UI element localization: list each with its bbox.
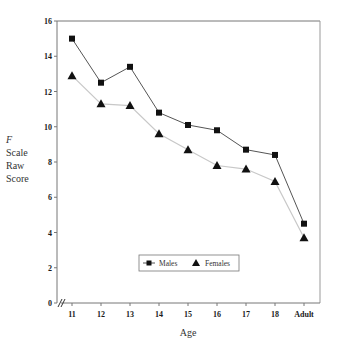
triangle-marker-icon — [271, 177, 280, 185]
x-tick-label: 17 — [242, 310, 250, 319]
y-tick-label: 0 — [48, 299, 52, 308]
y-tick-label: 10 — [44, 123, 52, 132]
series-line-males — [72, 39, 304, 224]
y-axis-ticks: 0246810121416 — [44, 17, 57, 308]
square-marker-icon — [98, 80, 104, 86]
square-marker-icon — [69, 36, 75, 42]
square-marker-icon — [272, 152, 278, 158]
y-axis-label-line: Scale — [6, 147, 28, 158]
x-tick-label: 16 — [213, 310, 221, 319]
x-tick-label: 18 — [271, 310, 279, 319]
x-axis-label: Age — [180, 327, 197, 338]
triangle-marker-icon — [184, 145, 193, 153]
triangle-marker-icon — [213, 161, 222, 169]
x-tick-label: 12 — [97, 310, 105, 319]
y-tick-label: 2 — [48, 264, 52, 273]
square-marker-icon — [156, 110, 162, 116]
square-marker-icon — [301, 221, 307, 227]
y-axis-label-line: Score — [6, 173, 29, 184]
y-tick-label: 6 — [48, 193, 52, 202]
x-tick-label: 14 — [155, 310, 163, 319]
x-axis-ticks: 1112131415161718Adult — [68, 303, 314, 319]
data-series — [68, 36, 309, 242]
y-tick-label: 16 — [44, 17, 52, 26]
y-axis-label: FScaleRawScore — [5, 134, 29, 184]
y-tick-label: 4 — [48, 229, 52, 238]
legend: MalesFemales — [139, 255, 239, 271]
y-tick-label: 12 — [44, 88, 52, 97]
y-axis-label-line: Raw — [6, 160, 25, 171]
line-chart: 0246810121416 1112131415161718Adult FSca… — [0, 0, 339, 350]
triangle-marker-icon — [300, 233, 309, 241]
x-tick-label: 11 — [68, 310, 76, 319]
y-tick-label: 14 — [44, 52, 52, 61]
x-tick-label: 13 — [126, 310, 134, 319]
square-marker-icon — [127, 64, 133, 70]
legend-label-males: Males — [159, 259, 177, 268]
x-tick-label: 15 — [184, 310, 192, 319]
triangle-marker-icon — [68, 71, 77, 79]
legend-label-females: Females — [205, 259, 230, 268]
y-tick-label: 8 — [48, 158, 52, 167]
square-marker-icon — [185, 122, 191, 128]
square-marker-icon — [243, 147, 249, 153]
square-marker-icon — [147, 261, 152, 266]
y-axis-label-line: F — [5, 134, 13, 145]
square-marker-icon — [214, 127, 220, 133]
x-tick-label: Adult — [294, 310, 314, 319]
series-line-females — [72, 76, 304, 238]
